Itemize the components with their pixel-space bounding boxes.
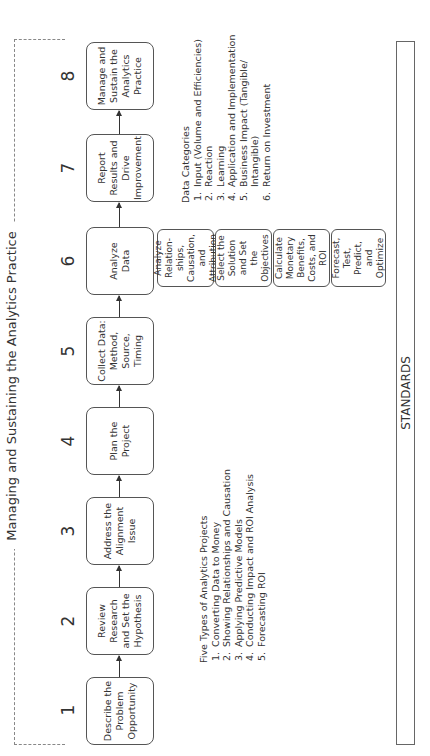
- step-label-1: Describe the Problem Opportunity: [102, 680, 138, 742]
- standards-bar: STANDARDS: [396, 41, 415, 745]
- step-box-3: Address the Alignment Issue: [86, 497, 154, 565]
- substep-label-2: Select the Solution and Set the Objectiv…: [216, 232, 271, 284]
- substep-label-1: Analyze Relation-ships, Causation, and A…: [153, 232, 219, 284]
- project-type-item: Applying Predictive Models: [233, 463, 245, 649]
- step-label-4: Plan the Project: [108, 410, 132, 472]
- data-category-item: Reaction: [203, 23, 215, 189]
- step-number-1: 1: [58, 675, 78, 745]
- analytics-process-diagram: Managing and Sustaining the Analytics Pr…: [0, 0, 430, 756]
- substep-analyze-relationships: Analyze Relation-ships, Causation, and A…: [157, 229, 214, 287]
- step-number-2: 2: [58, 586, 78, 656]
- data-category-item: Learning: [215, 23, 227, 189]
- project-types-list: Five Types of Analytics Projects Convert…: [198, 463, 267, 663]
- frame-title-text: Managing and Sustaining the Analytics Pr…: [4, 223, 19, 548]
- step-number-4: 4: [58, 406, 78, 476]
- step-number-3: 3: [58, 496, 78, 566]
- step-box-4: Plan the Project: [86, 407, 154, 475]
- data-categories-list: Data Categories Input (Volume and Effici…: [180, 23, 272, 203]
- step-label-8: Manage and Sustain the Analytics Practic…: [96, 45, 144, 107]
- substep-label-3: Calculate Monetary Benefits, Costs, and …: [274, 232, 329, 284]
- step-box-5: Collect Data: Method, Source, Timing: [86, 317, 154, 385]
- project-type-item: Showing Relationships and Causation: [221, 463, 233, 649]
- arrow-5-6: [119, 296, 120, 317]
- data-category-item: Return on Investment: [261, 23, 273, 189]
- step-label-2: Review Research and Set the Hypothesis: [96, 590, 144, 652]
- data-category-item: Input (Volume and Efficiencies): [192, 23, 204, 189]
- step-box-2: Review Research and Set the Hypothesis: [86, 587, 154, 655]
- data-categories-title: Data Categories: [180, 23, 192, 203]
- data-category-item: Application and Implementation: [226, 23, 238, 189]
- step-number-7: 7: [58, 133, 78, 203]
- step-label-3: Address the Alignment Issue: [102, 500, 138, 562]
- step-label-6: Analyze Data: [108, 230, 132, 292]
- project-type-item: Conducting Impact and ROI Analysis: [244, 463, 256, 649]
- step-box-8: Manage and Sustain the Analytics Practic…: [86, 42, 154, 110]
- arrow-3-4: [119, 476, 120, 497]
- step-label-5: Collect Data: Method, Source, Timing: [96, 320, 144, 382]
- project-types-title: Five Types of Analytics Projects: [198, 463, 210, 663]
- substep-calculate-roi: Calculate Monetary Benefits, Costs, and …: [273, 229, 330, 287]
- step-box-7: Report Results and Drive Improvement: [86, 134, 154, 202]
- arrow-1-2: [119, 656, 120, 677]
- frame-title: Managing and Sustaining the Analytics Pr…: [4, 16, 19, 756]
- step-box-1: Describe the Problem Opportunity: [86, 677, 154, 745]
- step-label-7: Report Results and Drive Improvement: [96, 136, 144, 200]
- arrow-6-7: [119, 203, 120, 227]
- arrow-4-5: [119, 386, 120, 407]
- arrow-7-8: [119, 111, 120, 134]
- data-category-item: Business Impact (Tangible/ Intangible): [238, 23, 261, 189]
- step-number-5: 5: [58, 316, 78, 386]
- project-type-item: Converting Data to Money: [210, 463, 222, 649]
- project-type-item: Forecasting ROI: [256, 463, 268, 649]
- standards-label: STANDARDS: [399, 356, 413, 430]
- step-number-8: 8: [58, 41, 78, 111]
- step-number-6: 6: [58, 226, 78, 296]
- substep-label-4: Forecast, Test, Predict, and Optimize: [331, 232, 386, 284]
- substep-forecast: Forecast, Test, Predict, and Optimize: [331, 229, 386, 287]
- step-box-6: Analyze Data: [86, 227, 154, 295]
- arrow-2-3: [119, 566, 120, 587]
- substep-select-solution: Select the Solution and Set the Objectiv…: [215, 229, 272, 287]
